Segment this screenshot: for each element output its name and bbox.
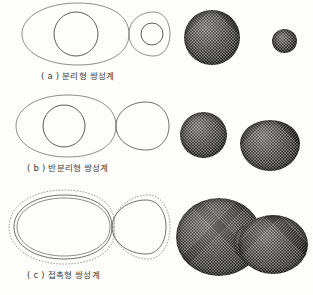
star-outline-primary <box>43 105 85 147</box>
roche-lobe-diagram-semi-detached <box>6 92 171 160</box>
binary-star-figure: ( a ) 분리형 쌍성계 ( b ) 반분리형 쌍성계 <box>0 0 313 295</box>
roche-lobe-diagram-detached <box>6 0 171 68</box>
star-outline-primary <box>54 12 98 56</box>
caption-semi-detached: ( b ) 반분리형 쌍성계 <box>27 161 109 173</box>
roche-lobe-primary <box>16 95 116 157</box>
roche-lobe-diagram-contact <box>6 188 171 266</box>
roche-lobe-secondary-filled <box>116 102 169 150</box>
star-3d-secondary-semi-detached <box>240 120 300 171</box>
contact-lobe-secondary <box>238 215 308 274</box>
star-3d-primary-detached <box>184 10 240 65</box>
panel-contact: ( c ) 접촉형 쌍성계 <box>0 188 313 295</box>
star-3d-primary-semi-detached <box>180 112 227 158</box>
star-3d-contact-binary <box>176 198 309 278</box>
roche-lobe-primary-inner <box>17 198 110 256</box>
star-outline-secondary <box>141 23 163 45</box>
panel-detached: ( a ) 분리형 쌍성계 <box>0 0 313 92</box>
caption-detached: ( a ) 분리형 쌍성계 <box>41 69 114 81</box>
render-contact <box>172 188 313 295</box>
caption-contact: ( c ) 접촉형 쌍성계 <box>27 268 100 280</box>
roche-lobe-primary-filled <box>14 195 112 259</box>
star-3d-secondary-detached <box>272 29 297 53</box>
roche-lobe-secondary <box>129 12 170 56</box>
render-semi-detached <box>172 92 313 188</box>
panel-semi-detached: ( b ) 반분리형 쌍성계 <box>0 92 313 188</box>
render-detached <box>172 0 313 92</box>
